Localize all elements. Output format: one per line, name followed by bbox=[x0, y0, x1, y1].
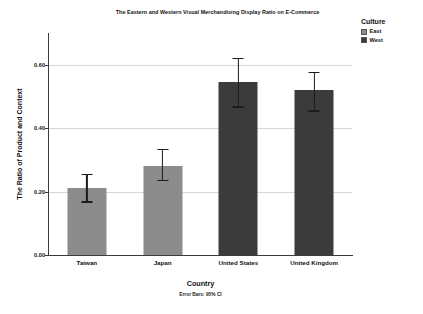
error-bar-cap-bottom bbox=[233, 106, 244, 107]
error-bar-cap-top bbox=[233, 58, 244, 59]
bar-group[interactable]: United Kingdom bbox=[276, 33, 352, 255]
chart-figure: The Eastern and Western Visual Merchandi… bbox=[0, 0, 423, 314]
chart-title: The Eastern and Western Visual Merchandi… bbox=[0, 9, 423, 15]
x-tick-label: United States bbox=[201, 259, 277, 266]
y-tick-mark bbox=[45, 255, 49, 256]
bar-group[interactable]: United States bbox=[201, 33, 277, 255]
x-axis-label: Country bbox=[49, 279, 352, 288]
legend-label-west: West bbox=[370, 37, 383, 44]
error-bar bbox=[233, 58, 244, 108]
error-bar-line bbox=[238, 58, 239, 108]
legend-swatch-east bbox=[361, 29, 367, 35]
error-bar-line bbox=[162, 149, 163, 182]
error-bar-cap-bottom bbox=[309, 110, 320, 111]
error-bar-cap-bottom bbox=[157, 180, 168, 181]
legend-item-east: East bbox=[357, 28, 419, 35]
error-bar-cap-bottom bbox=[81, 201, 92, 202]
bar[interactable] bbox=[219, 82, 258, 255]
bar[interactable] bbox=[295, 90, 334, 255]
bar-group[interactable]: Taiwan bbox=[49, 33, 125, 255]
error-bar-cap-top bbox=[157, 149, 168, 150]
legend-item-west: West bbox=[357, 37, 419, 44]
error-bar-cap-top bbox=[81, 174, 92, 175]
legend-title: Culture bbox=[357, 18, 419, 25]
error-bar bbox=[157, 149, 168, 182]
y-tick-label: 0.20 bbox=[19, 189, 45, 195]
chart-footnote: Error Bars: 95% CI bbox=[49, 292, 352, 297]
error-bar-cap-top bbox=[309, 72, 320, 73]
legend-swatch-west bbox=[361, 37, 367, 43]
error-bar bbox=[81, 174, 92, 203]
y-tick-label: 0.00 bbox=[19, 252, 45, 258]
x-tick-label: United Kingdom bbox=[276, 259, 352, 266]
legend-label-east: East bbox=[370, 28, 382, 35]
error-bar-line bbox=[314, 72, 315, 112]
plot-area: 0.000.200.400.60 TaiwanJapanUnited State… bbox=[49, 33, 352, 255]
x-tick-label: Taiwan bbox=[49, 259, 125, 266]
y-tick-label: 0.60 bbox=[19, 62, 45, 68]
y-axis-label-rotator: The Ratio of Product and Context bbox=[13, 0, 27, 33]
error-bar-line bbox=[86, 174, 87, 203]
error-bar bbox=[309, 72, 320, 112]
x-axis-line bbox=[48, 255, 353, 256]
x-tick-label: Japan bbox=[125, 259, 201, 266]
y-tick-label: 0.40 bbox=[19, 125, 45, 131]
chart-legend: Culture East West bbox=[357, 18, 419, 45]
bar-group[interactable]: Japan bbox=[125, 33, 201, 255]
